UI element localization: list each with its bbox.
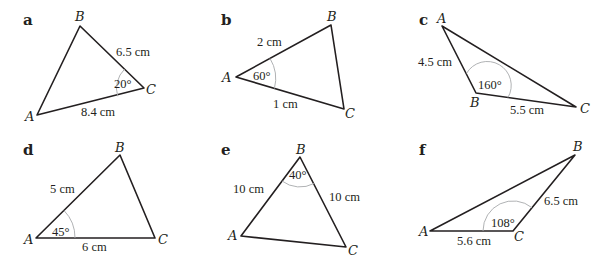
triangles-figure: a B C A 6.5 cm 8.4 cm 20° b B C A 2 cm 1…	[0, 0, 604, 271]
vertex-f-B: B	[572, 139, 583, 154]
vertex-f-C: C	[514, 229, 524, 244]
vertex-a-B: B	[74, 9, 85, 24]
triangle-a-shape	[37, 26, 144, 115]
vertex-a-A: A	[24, 109, 34, 124]
triangle-a: a B C A 6.5 cm 8.4 cm 20°	[23, 9, 156, 124]
side-f-AC: 5.6 cm	[457, 234, 491, 248]
vertex-c-C: C	[580, 101, 590, 116]
vertex-b-C: C	[345, 106, 355, 121]
label-a: a	[23, 11, 33, 29]
vertex-b-A: A	[221, 70, 231, 85]
vertex-d-A: A	[23, 232, 33, 247]
side-c-BC: 5.5 cm	[510, 103, 544, 117]
angle-arc-b	[270, 58, 276, 88]
angle-b-A: 60°	[253, 69, 271, 83]
side-b-AC: 1 cm	[273, 97, 298, 111]
vertex-d-C: C	[158, 232, 168, 247]
vertex-b-B: B	[326, 9, 337, 24]
label-e: e	[221, 141, 231, 159]
angle-e-B: 40°	[289, 168, 307, 182]
side-a-BC: 6.5 cm	[116, 45, 150, 59]
side-b-AB: 2 cm	[257, 35, 282, 49]
vertex-e-A: A	[227, 228, 237, 243]
triangle-c: c A B C 4.5 cm 5.5 cm 160°	[418, 11, 590, 117]
vertex-c-A: A	[436, 11, 446, 26]
side-e-AB: 10 cm	[233, 182, 264, 196]
vertex-d-B: B	[114, 140, 125, 155]
angle-a-C: 20°	[114, 77, 132, 91]
label-b: b	[221, 11, 232, 29]
angle-d-A: 45°	[52, 225, 70, 239]
label-c: c	[419, 11, 428, 29]
label-f: f	[419, 141, 427, 159]
angle-c-B: 160°	[478, 78, 502, 92]
vertex-a-C: C	[146, 82, 156, 97]
label-d: d	[23, 141, 34, 159]
triangle-e: e B C A 10 cm 10 cm 40°	[221, 141, 360, 258]
triangle-f: f B C A 6.5 cm 5.6 cm 108°	[418, 139, 583, 248]
side-d-AC: 6 cm	[82, 240, 107, 254]
triangle-b: b B C A 2 cm 1 cm 60°	[221, 9, 355, 121]
side-e-BC: 10 cm	[329, 190, 360, 204]
side-d-AB: 5 cm	[50, 182, 75, 196]
side-f-BC: 6.5 cm	[544, 194, 578, 208]
triangle-d: d B C A 5 cm 6 cm 45°	[23, 140, 168, 254]
vertex-e-C: C	[348, 243, 358, 258]
side-c-AB: 4.5 cm	[418, 55, 452, 69]
vertex-f-A: A	[418, 224, 428, 239]
vertex-e-B: B	[295, 142, 306, 157]
angle-f-C: 108°	[491, 216, 515, 230]
side-a-AC: 8.4 cm	[81, 105, 115, 119]
vertex-c-B: B	[469, 95, 480, 110]
